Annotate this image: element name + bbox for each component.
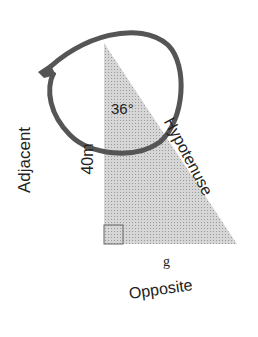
opposite-value-label: g [163, 254, 170, 270]
angle-label: 36° [111, 100, 134, 117]
triangle-diagram: Adjacent 40m Hypotenuse 36° g Opposite [0, 0, 258, 337]
adjacent-length-label: 40m [79, 143, 97, 174]
adjacent-label: Adjacent [15, 127, 35, 193]
